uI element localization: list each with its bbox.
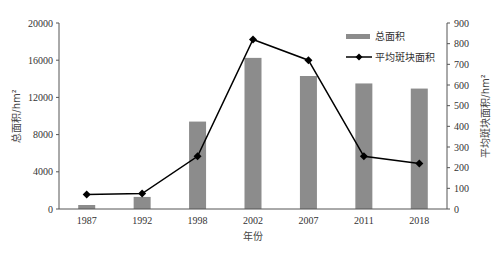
x-tick-label: 1992 <box>132 215 152 226</box>
diamond-marker-icon <box>304 56 312 64</box>
bar <box>245 58 262 209</box>
left-y-axis: 040008000120001600020000 <box>28 18 59 215</box>
right-y-axis-title: 平均斑块面积/hm² <box>479 74 491 157</box>
left-tick-label: 0 <box>48 204 53 215</box>
right-tick-label: 400 <box>454 121 469 132</box>
left-tick-label: 4000 <box>33 166 53 177</box>
x-axis-title: 年份 <box>243 230 263 242</box>
right-tick-label: 500 <box>454 100 469 111</box>
legend-diamond-icon <box>356 54 363 61</box>
legend: 总面积 平均斑块面积 <box>346 30 435 63</box>
x-axis: 1987199219982002200720112018 <box>59 209 447 226</box>
x-tick-label: 2011 <box>354 215 374 226</box>
left-y-axis-title: 总面积/hm² <box>10 89 22 142</box>
left-tick-label: 8000 <box>33 129 53 140</box>
legend-line-label: 平均斑块面积 <box>375 51 435 63</box>
x-tick-label: 2018 <box>409 215 429 226</box>
bar <box>300 76 317 209</box>
x-tick-label: 2002 <box>243 215 263 226</box>
diamond-marker-icon <box>249 36 257 44</box>
bar <box>78 205 95 209</box>
right-tick-label: 800 <box>454 38 469 49</box>
right-y-axis: 0100200300400500600700800900 <box>447 18 469 215</box>
bar <box>189 122 206 209</box>
right-tick-label: 100 <box>454 183 469 194</box>
right-tick-label: 200 <box>454 162 469 173</box>
left-tick-label: 16000 <box>28 55 53 66</box>
right-tick-label: 600 <box>454 80 469 91</box>
right-tick-label: 0 <box>454 204 459 215</box>
legend-bar-label: 总面积 <box>375 30 405 42</box>
x-tick-label: 1998 <box>188 215 208 226</box>
legend-bar-swatch <box>346 34 370 39</box>
right-tick-label: 900 <box>454 18 469 29</box>
x-tick-label: 1987 <box>77 215 97 226</box>
chart: 040008000120001600020000 010020030040050… <box>0 0 502 253</box>
left-tick-label: 20000 <box>28 18 53 29</box>
x-tick-label: 2007 <box>298 215 318 226</box>
diamond-marker-icon <box>83 191 91 199</box>
bar <box>134 197 151 209</box>
left-tick-label: 12000 <box>28 92 53 103</box>
right-tick-label: 700 <box>454 59 469 70</box>
bar <box>411 89 428 209</box>
diamond-marker-icon <box>138 190 146 198</box>
right-tick-label: 300 <box>454 142 469 153</box>
